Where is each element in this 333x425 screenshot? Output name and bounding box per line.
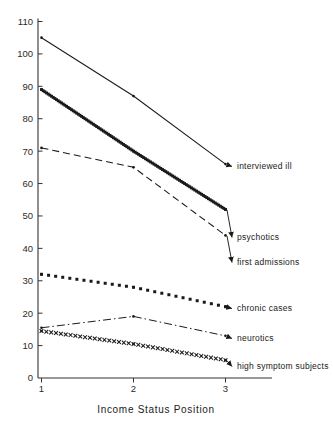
- series-label-interviewed-ill: interviewed ill: [237, 161, 292, 171]
- series-label-high-symptom-subjects: high symptom subjects: [237, 361, 329, 371]
- y-tick-label: 90: [22, 81, 33, 92]
- y-axis: 0102030405060708090100110: [17, 16, 42, 384]
- y-tick-label: 20: [22, 308, 33, 319]
- x-axis-title: Income Status Position: [97, 404, 215, 415]
- y-tick-label: 10: [22, 340, 33, 351]
- y-tick-label: 30: [22, 275, 33, 286]
- y-tick-label: 100: [17, 48, 33, 59]
- y-tick-label: 0: [28, 372, 33, 383]
- series-interviewed-ill: [40, 36, 227, 165]
- series-high-symptom-subjects: [40, 329, 228, 362]
- chart-figure: 0102030405060708090100110 123 interviewe…: [0, 0, 333, 425]
- leader-line: [227, 236, 232, 263]
- y-tick-label: 80: [22, 113, 33, 124]
- series-neurotics: [40, 315, 227, 337]
- y-tick-label: 60: [22, 178, 33, 189]
- y-tick-label: 70: [22, 146, 33, 157]
- leader-line: [227, 336, 232, 338]
- series-annotations: interviewed illpsychoticsfirst admission…: [227, 161, 329, 371]
- y-tick-label: 50: [22, 210, 33, 221]
- series-lines: [40, 36, 228, 362]
- x-tick-label: 1: [39, 383, 44, 394]
- series-label-first-admissions: first admissions: [237, 257, 300, 267]
- series-psychotics: [40, 88, 227, 211]
- chart-plot-area: 0102030405060708090100110 123 interviewe…: [0, 0, 333, 425]
- leader-line: [227, 361, 232, 367]
- y-tick-label: 40: [22, 243, 33, 254]
- x-axis: 123: [38, 378, 272, 394]
- x-tick-label: 3: [223, 383, 228, 394]
- leader-line: [227, 210, 232, 238]
- series-label-psychotics: psychotics: [237, 232, 279, 242]
- x-tick-label: 2: [131, 383, 136, 394]
- series-label-neurotics: neurotics: [237, 333, 274, 343]
- leader-line: [227, 165, 232, 167]
- y-tick-label: 110: [18, 16, 33, 27]
- series-label-chronic-cases: chronic cases: [237, 303, 292, 313]
- series-chronic-cases: [40, 273, 227, 308]
- leader-line: [227, 307, 232, 308]
